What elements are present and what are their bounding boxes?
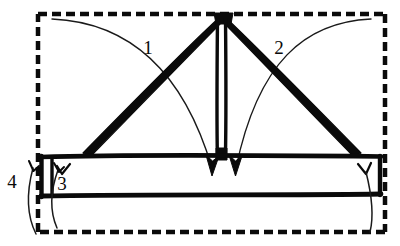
diagonal-strut-left	[83, 16, 224, 157]
leader-arrowhead-right	[229, 155, 242, 176]
beam-bottom-edge	[41, 194, 381, 196]
beam-top-edge	[41, 155, 381, 157]
callout-label-2: 2	[274, 37, 284, 58]
diagonal-strut-right	[221, 16, 361, 157]
callout-label-1: 1	[143, 37, 153, 58]
king-post-left-line	[217, 18, 218, 157]
structural-frame-diagram: 1 2 3 4	[0, 0, 400, 246]
king-post-right-line	[225, 18, 226, 157]
vertical-king-post	[216, 18, 227, 160]
callout-label-3: 3	[57, 173, 67, 194]
diagram-canvas: 1 2 3 4	[0, 0, 400, 246]
rotation-arrow-4-path	[28, 168, 36, 234]
v-tick-right-mark	[358, 163, 371, 174]
rotation-curve-right-path	[366, 172, 372, 232]
rotation-curve-right	[366, 172, 372, 232]
callout-label-4: 4	[7, 171, 17, 192]
v-tick-right	[358, 163, 371, 174]
outer-dashed-boundary	[38, 14, 385, 232]
leader-curve-left-path	[52, 19, 212, 168]
